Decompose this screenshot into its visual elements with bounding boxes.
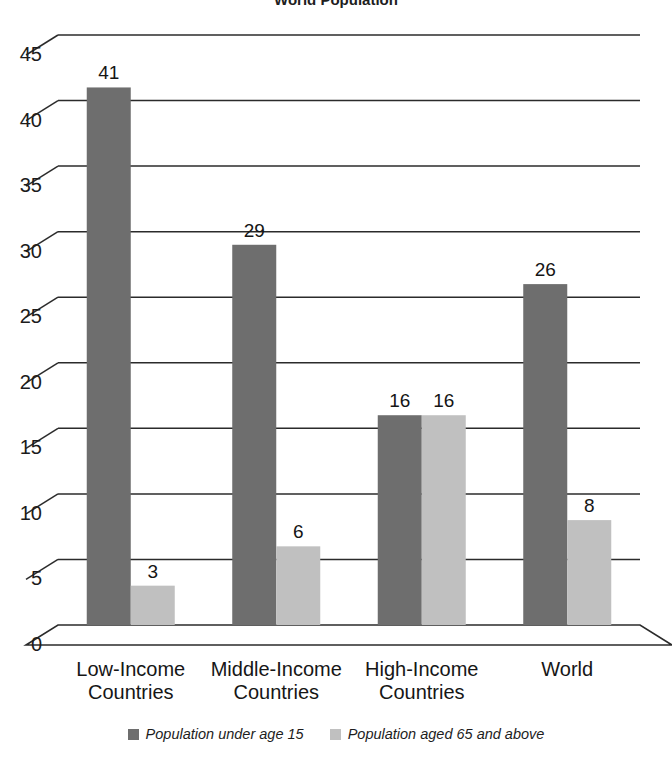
y-axis-tick-label: 40 (2, 110, 42, 130)
bar-1-0 (232, 245, 276, 625)
chart-container: World Population 051015202530354045 4132… (0, 0, 672, 767)
bar-0-0 (87, 87, 131, 625)
bar-value-label: 41 (79, 63, 139, 82)
legend-entry[interactable]: Population under age 15 (128, 726, 304, 742)
y-axis-tick-label: 30 (2, 241, 42, 261)
bar-1-1 (276, 546, 320, 625)
y-axis-tick-label: 15 (2, 437, 42, 457)
y-axis-tick-label: 5 (2, 568, 42, 588)
y-axis-tick-label: 35 (2, 175, 42, 195)
legend-swatch-icon (330, 729, 341, 740)
bar-value-label: 6 (268, 522, 328, 541)
bar-3-1 (567, 520, 611, 625)
bar-2-0 (378, 415, 422, 625)
y-axis-tick-label: 10 (2, 503, 42, 523)
y-axis-tick-label: 0 (2, 634, 42, 654)
legend-label: Population under age 15 (146, 726, 304, 742)
bar-value-label: 3 (123, 562, 183, 581)
bar-value-label: 16 (414, 391, 474, 410)
chart-plot-area (0, 0, 672, 767)
legend-label: Population aged 65 and above (348, 726, 545, 742)
y-axis-tick-label: 45 (2, 44, 42, 64)
bars-group (87, 87, 612, 625)
category-label-line: Countries (327, 681, 517, 704)
chart-legend: Population under age 15Population aged 6… (0, 726, 672, 742)
category-label-line: World (472, 658, 662, 681)
legend-entry[interactable]: Population aged 65 and above (330, 726, 545, 742)
y-axis-tick-label: 25 (2, 306, 42, 326)
chart-floor (26, 625, 672, 645)
bar-value-label: 29 (224, 221, 284, 240)
y-axis-tick-label: 20 (2, 372, 42, 392)
bar-3-0 (523, 284, 567, 625)
bar-value-label: 8 (559, 496, 619, 515)
gridline-45 (26, 35, 640, 55)
bar-value-label: 26 (515, 260, 575, 279)
bar-2-1 (422, 415, 466, 625)
x-axis-category-label: World (472, 658, 662, 681)
bar-0-1 (131, 586, 175, 625)
legend-swatch-icon (128, 729, 139, 740)
